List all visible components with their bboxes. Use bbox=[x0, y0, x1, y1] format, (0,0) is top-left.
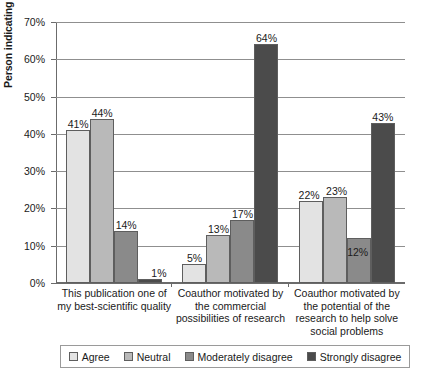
category-label-line: social problems bbox=[289, 325, 405, 338]
bar[interactable]: 5% bbox=[182, 264, 206, 283]
category-label-line: possibilities of research bbox=[172, 312, 288, 325]
bar[interactable]: 17% bbox=[230, 220, 254, 283]
legend-label: Neutral bbox=[137, 351, 171, 363]
y-axis-tick-label: 70% bbox=[24, 16, 45, 28]
legend-item[interactable]: Moderately disagree bbox=[185, 351, 293, 363]
bar-value-label: 43% bbox=[372, 111, 393, 123]
bar-value-label: 41% bbox=[68, 118, 89, 130]
category-label: Coauthor motivated bythe potential of th… bbox=[289, 287, 405, 337]
bar-slot: 44% bbox=[90, 22, 114, 283]
bar-slot: 12% bbox=[347, 22, 371, 283]
category-label-line: Coauthor motivated by bbox=[289, 287, 405, 300]
legend-swatch-icon bbox=[124, 352, 133, 361]
bar-slot: 22% bbox=[299, 22, 323, 283]
category-label-line: the potential of the bbox=[289, 300, 405, 313]
bar[interactable]: 64% bbox=[254, 44, 278, 283]
y-axis-tick-label: 50% bbox=[24, 91, 45, 103]
category-label: Coauthor motivated bythe commercialpossi… bbox=[172, 287, 288, 325]
legend-item[interactable]: Agree bbox=[69, 351, 110, 363]
bar-slot: 1% bbox=[138, 22, 162, 283]
legend-label: Moderately disagree bbox=[198, 351, 293, 363]
legend-label: Strongly disagree bbox=[320, 351, 402, 363]
bar[interactable]: 13% bbox=[206, 235, 230, 283]
bar-value-label: 14% bbox=[116, 219, 137, 231]
category-label-line: Coauthor motivated by bbox=[172, 287, 288, 300]
chart-legend: AgreeNeutralModerately disagreeStrongly … bbox=[60, 345, 410, 368]
bar-group: 22%23%12%43% bbox=[289, 22, 405, 283]
bar-chart: Person indicating rating 0%10%20%30%40%5… bbox=[0, 0, 428, 382]
category-label-line: my best-scientific quality bbox=[56, 300, 172, 313]
bar-value-label: 12% bbox=[347, 246, 368, 258]
legend-item[interactable]: Strongly disagree bbox=[307, 351, 402, 363]
bar-value-label: 44% bbox=[92, 107, 113, 119]
bar-value-label: 17% bbox=[232, 208, 253, 220]
category-label: This publication one ofmy best-scientifi… bbox=[56, 287, 172, 312]
category-label-line: research to help solve bbox=[289, 312, 405, 325]
y-axis-tick-label: 40% bbox=[24, 128, 45, 140]
y-axis-tick-label: 0% bbox=[30, 277, 45, 289]
legend-swatch-icon bbox=[69, 352, 78, 361]
bar[interactable]: 41% bbox=[66, 130, 90, 283]
legend-label: Agree bbox=[82, 351, 110, 363]
bar-value-label: 5% bbox=[187, 252, 202, 264]
legend-swatch-icon bbox=[307, 352, 316, 361]
bar-slot: 23% bbox=[323, 22, 347, 283]
bar[interactable]: 23% bbox=[323, 197, 347, 283]
y-axis-tick bbox=[51, 283, 56, 284]
y-axis-tick-labels: 0%10%20%30%40%50%60%70% bbox=[0, 22, 52, 283]
bar-value-label: 13% bbox=[208, 223, 229, 235]
legend-item[interactable]: Neutral bbox=[124, 351, 171, 363]
bar-value-label: 22% bbox=[299, 189, 320, 201]
y-axis-tick-label: 10% bbox=[24, 240, 45, 252]
category-label-line: This publication one of bbox=[56, 287, 172, 300]
bar-slot: 64% bbox=[254, 22, 278, 283]
bar-value-label: 23% bbox=[326, 185, 347, 197]
bar-group: 41%44%14%1% bbox=[56, 22, 172, 283]
bar-slot: 5% bbox=[182, 22, 206, 283]
plot-area: 41%44%14%1%5%13%17%64%22%23%12%43% bbox=[56, 22, 405, 283]
x-axis-category-labels: This publication one ofmy best-scientifi… bbox=[56, 287, 405, 339]
bar[interactable]: 14% bbox=[114, 231, 138, 283]
bar-slot: 41% bbox=[66, 22, 90, 283]
y-axis-tick-label: 30% bbox=[24, 165, 45, 177]
bar-slot: 14% bbox=[114, 22, 138, 283]
bar-slot: 43% bbox=[371, 22, 395, 283]
bar[interactable]: 43% bbox=[371, 123, 395, 283]
category-label-line: the commercial bbox=[172, 300, 288, 313]
legend-swatch-icon bbox=[185, 352, 194, 361]
bar[interactable]: 22% bbox=[299, 201, 323, 283]
bar-group: 5%13%17%64% bbox=[172, 22, 288, 283]
bar[interactable]: 1% bbox=[138, 279, 162, 283]
y-axis-tick-label: 60% bbox=[24, 53, 45, 65]
bar-slot: 13% bbox=[206, 22, 230, 283]
y-axis-tick-label: 20% bbox=[24, 202, 45, 214]
bar-value-label: 1% bbox=[151, 267, 166, 279]
gridline bbox=[56, 283, 405, 284]
bar-slot: 17% bbox=[230, 22, 254, 283]
bar-value-label: 64% bbox=[256, 32, 277, 44]
bar[interactable]: 44% bbox=[90, 119, 114, 283]
bar[interactable]: 12% bbox=[347, 238, 371, 283]
